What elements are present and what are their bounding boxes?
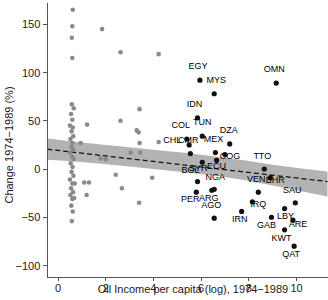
y-tick-label: 50 <box>28 115 40 127</box>
data-point <box>69 112 74 117</box>
data-point-kwt <box>282 227 287 232</box>
point-label-mex: MEX <box>204 134 224 144</box>
point-label-nga: NGA <box>205 172 225 182</box>
data-point <box>70 35 75 40</box>
data-point-arg <box>209 188 214 193</box>
point-label-gab: GAB <box>257 220 276 230</box>
data-point <box>69 129 74 134</box>
data-point-gab <box>269 215 274 220</box>
data-point <box>70 209 75 214</box>
point-label-cmr: CMR <box>178 135 199 145</box>
data-point <box>137 200 142 205</box>
data-point <box>87 180 92 185</box>
data-point <box>70 117 75 122</box>
data-point <box>70 141 75 146</box>
scatter-plot-figure: EGYMYSOMNIDNTUNCOLCHLDZAMEXCMRCOGECUSYRT… <box>0 0 328 300</box>
data-point <box>100 27 105 32</box>
unlabeled-data-points <box>68 7 161 223</box>
data-point <box>68 177 73 182</box>
point-label-tto: TTO <box>253 151 271 161</box>
point-label-idn: IDN <box>187 99 203 109</box>
data-point <box>138 150 143 155</box>
chart-canvas: EGYMYSOMNIDNTUNCOLCHLDZAMEXCMRCOGECUSYRT… <box>0 0 328 300</box>
data-point <box>120 186 125 191</box>
y-axis-ticks: −100−50050100150 <box>15 18 47 271</box>
data-point <box>70 7 75 12</box>
data-point <box>71 106 76 111</box>
y-tick-label: −100 <box>15 260 40 272</box>
data-point-mys <box>212 91 217 96</box>
data-point <box>70 219 75 224</box>
data-point <box>137 141 142 146</box>
data-point <box>70 24 75 29</box>
data-point <box>156 140 161 145</box>
y-axis-title: Change 1974−1989 (%) <box>3 86 15 203</box>
point-label-omn: OMN <box>264 64 285 74</box>
data-point <box>118 50 123 55</box>
data-point <box>70 56 75 61</box>
data-point <box>84 193 89 198</box>
data-point-cmr <box>188 151 193 156</box>
point-label-col: COL <box>172 120 191 130</box>
data-point-bol <box>195 179 200 184</box>
point-label-ven: VEN <box>247 174 266 184</box>
x-axis-title: Oil Income per capita (log), 1974−1989 <box>98 283 288 295</box>
data-point <box>85 122 90 127</box>
data-point-mex <box>213 150 218 155</box>
data-point <box>134 128 139 133</box>
point-label-tun: TUN <box>193 117 212 127</box>
point-label-sau: SAU <box>283 185 302 195</box>
point-label-ago: AGO <box>201 200 221 210</box>
data-point <box>68 150 73 155</box>
data-point-qat <box>292 244 297 249</box>
data-point <box>156 52 161 57</box>
data-point-omn <box>274 81 279 86</box>
data-point <box>72 181 77 186</box>
data-point-sau <box>293 200 298 205</box>
y-tick-label: 0 <box>34 163 40 175</box>
point-label-mys: MYS <box>206 75 226 85</box>
data-point <box>150 175 155 180</box>
data-point-ven <box>256 190 261 195</box>
data-point <box>71 157 76 162</box>
data-point <box>69 203 74 208</box>
data-point <box>70 165 75 170</box>
point-label-egy: EGY <box>188 61 207 71</box>
data-point-dza <box>227 141 232 146</box>
point-label-cog: COG <box>220 151 241 161</box>
point-label-qat: QAT <box>282 249 300 259</box>
data-point <box>113 172 118 177</box>
point-label-kwt: KWT <box>272 233 292 243</box>
x-tick-label: 0 <box>55 282 61 294</box>
x-tick-label: 10 <box>290 282 302 294</box>
data-point <box>71 173 76 178</box>
point-label-are: ARE <box>289 219 308 229</box>
data-point <box>82 180 87 185</box>
data-point <box>137 107 142 112</box>
point-label-irn: IRN <box>232 214 248 224</box>
data-point-irn <box>239 209 244 214</box>
point-label-bol: BOL <box>182 165 200 175</box>
data-point-ago <box>212 216 217 221</box>
point-label-ecu: ECU <box>207 161 226 171</box>
data-point <box>78 141 83 146</box>
data-point <box>98 156 103 161</box>
point-label-per: PER <box>181 194 200 204</box>
point-label-irq: IRQ <box>250 199 266 209</box>
y-tick-label: −50 <box>22 211 41 223</box>
y-tick-label: 150 <box>22 18 40 30</box>
data-point <box>103 157 108 162</box>
data-point <box>128 150 133 155</box>
data-point-tto <box>262 166 267 171</box>
data-point-egy <box>197 78 202 83</box>
data-point <box>72 196 77 201</box>
point-label-bhr: BHR <box>266 175 286 185</box>
data-point <box>118 118 123 123</box>
y-tick-label: 100 <box>22 67 40 79</box>
